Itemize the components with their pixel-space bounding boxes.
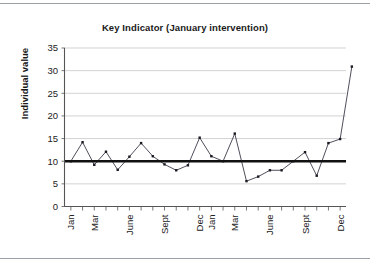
plot-area: 05101520253035 JanMarJuneSeptDecJanMarJu… — [0, 0, 370, 273]
x-axis-tick-labels: JanMarJuneSeptDecJanMarJuneSeptDec — [65, 214, 345, 235]
y-tick-label: 35 — [47, 42, 58, 53]
y-axis-tick-labels: 05101520253035 — [47, 42, 58, 212]
grid-lines — [62, 48, 347, 207]
data-point-marker — [234, 132, 236, 134]
x-tick-label: Sept — [300, 214, 311, 234]
data-point-marker — [116, 169, 118, 171]
x-tick-label: Jan — [65, 215, 76, 230]
x-tick-label: June — [264, 215, 275, 236]
data-point-marker — [245, 180, 247, 182]
x-tick-label: Dec — [335, 214, 346, 231]
series-markers — [70, 65, 353, 182]
data-point-marker — [105, 151, 107, 153]
data-point-marker — [175, 169, 177, 171]
data-point-marker — [81, 141, 83, 143]
data-point-marker — [257, 175, 259, 177]
data-point-marker — [198, 136, 200, 138]
y-tick-label: 20 — [47, 110, 58, 121]
y-tick-label: 25 — [47, 88, 58, 99]
x-tick-label: June — [124, 215, 135, 236]
data-point-marker — [351, 65, 353, 67]
x-tick-label: Jan — [206, 215, 217, 230]
y-tick-label: 30 — [47, 65, 58, 76]
y-tick-label: 15 — [47, 133, 58, 144]
data-point-marker — [316, 175, 318, 177]
y-tick-label: 10 — [47, 156, 58, 167]
data-point-marker — [152, 155, 154, 157]
data-point-marker — [269, 169, 271, 171]
data-point-marker — [304, 151, 306, 153]
data-point-marker — [339, 138, 341, 140]
x-tick-label: Sept — [159, 214, 170, 234]
data-point-marker — [327, 142, 329, 144]
x-tick-label: Mar — [229, 215, 240, 231]
data-point-marker — [140, 142, 142, 144]
y-tick-label: 0 — [53, 201, 58, 212]
data-point-marker — [163, 163, 165, 165]
data-point-marker — [280, 169, 282, 171]
series-line-individual-value — [71, 67, 352, 182]
y-tick-label: 5 — [53, 178, 58, 189]
data-point-marker — [93, 164, 95, 166]
data-point-marker — [210, 155, 212, 157]
data-point-marker — [128, 155, 130, 157]
x-tick-label: Dec — [194, 214, 205, 231]
x-tick-label: Mar — [89, 215, 100, 231]
chart-figure: Key Indicator (January intervention) Ind… — [0, 0, 370, 273]
data-point-marker — [187, 164, 189, 166]
x-axis-tick-marks — [71, 207, 340, 211]
